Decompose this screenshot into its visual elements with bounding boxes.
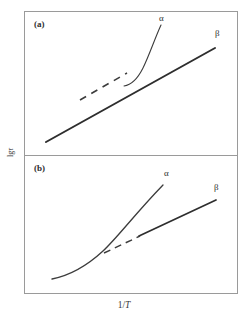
panel-b-tag: (b)	[34, 163, 45, 173]
figure-container: lgτ 1/T (a) (b) α β α β	[0, 0, 248, 321]
y-axis-label-symbol: τ	[6, 148, 15, 151]
x-axis-label-numerator: 1/	[118, 300, 125, 310]
panel-b-beta-label: β	[214, 182, 219, 192]
panel-a-alpha-label: α	[159, 13, 164, 23]
plot-canvas	[0, 0, 248, 321]
panel-a-beta-extrapolation	[80, 73, 127, 100]
x-axis-label-symbol: T	[125, 300, 130, 310]
panel-b-alpha-label: α	[164, 168, 169, 178]
x-axis-label: 1/T	[0, 300, 248, 310]
panel-b-beta-line	[139, 200, 216, 236]
panel-a-beta-line	[46, 48, 215, 142]
y-axis-label-prefix: lg	[6, 151, 15, 157]
panel-a-alpha-curve	[124, 25, 161, 86]
panel-a-tag: (a)	[34, 19, 45, 29]
y-axis-label: lgτ	[6, 137, 15, 169]
panel-a-beta-label: β	[215, 28, 220, 38]
